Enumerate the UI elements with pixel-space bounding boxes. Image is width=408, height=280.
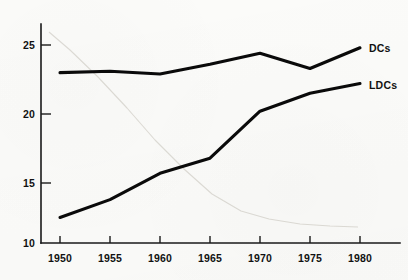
x-axis-label-1960: 1960 xyxy=(148,252,172,264)
series-line-ldcs xyxy=(60,84,360,218)
y-axis-label-10: 10 xyxy=(23,237,35,249)
chart-canvas: 25 20 15 10 1950 1955 1960 1965 1970 197… xyxy=(0,0,408,280)
y-axis-label-20: 20 xyxy=(23,108,35,120)
x-axis-label-1965: 1965 xyxy=(198,252,222,264)
x-axis-label-1950: 1950 xyxy=(48,252,72,264)
y-axis-label-25: 25 xyxy=(23,39,35,51)
x-axis-label-1970: 1970 xyxy=(248,252,272,264)
background-ghost-curve xyxy=(49,32,358,227)
line-chart: 25 20 15 10 1950 1955 1960 1965 1970 197… xyxy=(0,0,408,280)
y-axis-label-15: 15 xyxy=(23,177,35,189)
x-axis-label-1975: 1975 xyxy=(298,252,322,264)
series-line-dcs xyxy=(60,48,360,74)
series-label-dcs: DCs xyxy=(369,42,391,54)
x-axis-label-1955: 1955 xyxy=(98,252,122,264)
x-axis-label-1980: 1980 xyxy=(348,252,372,264)
series-label-ldcs: LDCs xyxy=(369,79,397,91)
